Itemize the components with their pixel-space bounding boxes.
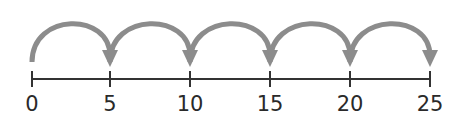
jump-arc [350, 24, 430, 62]
number-line-svg: 0510152025 [0, 0, 464, 119]
tick-label: 5 [103, 92, 116, 116]
tick-label: 15 [257, 92, 284, 116]
jump-arc [270, 24, 350, 62]
jump-arc [110, 24, 190, 62]
jump-arc [190, 24, 270, 62]
tick-label: 25 [417, 92, 444, 116]
jump-arc [32, 24, 110, 62]
tick-label: 20 [337, 92, 364, 116]
tick-label: 10 [177, 92, 204, 116]
jump-arcs [32, 24, 438, 67]
arrowhead-icon [422, 50, 438, 67]
tick-label: 0 [25, 92, 38, 116]
tick-labels: 0510152025 [25, 92, 443, 116]
number-line-diagram: 0510152025 [0, 0, 464, 119]
